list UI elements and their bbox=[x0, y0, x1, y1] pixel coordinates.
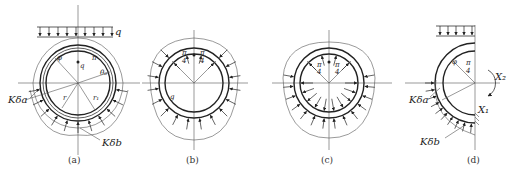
soil-reaction-arrow bbox=[210, 115, 215, 125]
soil-reaction-arrow bbox=[344, 88, 355, 92]
soil-reaction-arrow bbox=[200, 119, 202, 130]
soil-reaction-arrow bbox=[152, 62, 162, 67]
soil-reaction-arrow bbox=[187, 119, 189, 130]
soil-reaction-arrow bbox=[226, 99, 236, 104]
soil-reaction-arrow bbox=[173, 115, 178, 125]
panel-b: π 4 π 4 g (b) bbox=[142, 30, 248, 165]
label-pi-right: π bbox=[199, 49, 205, 57]
soil-reaction-arrow bbox=[351, 111, 357, 119]
label-pi-left: π bbox=[181, 49, 187, 57]
soil-reaction-arrow bbox=[152, 99, 162, 104]
soil-reaction-arrow bbox=[300, 111, 306, 119]
soil-reaction-arrow bbox=[364, 75, 374, 77]
soil-reaction-arrow bbox=[283, 86, 293, 87]
label-4-right: 4 bbox=[334, 68, 339, 76]
soil-reaction-arrow bbox=[337, 97, 343, 107]
label-g: g bbox=[170, 93, 175, 101]
label-r1: r₁ bbox=[93, 94, 99, 102]
soil-reaction-arrow bbox=[286, 96, 295, 100]
label-theta0: θ₀ bbox=[100, 69, 107, 77]
soil-reaction-arrow bbox=[448, 117, 453, 125]
soil-reaction-arrow bbox=[116, 90, 127, 92]
soil-reaction-arrow bbox=[311, 116, 315, 125]
soil-reaction-arrow bbox=[52, 116, 58, 125]
soil-reaction-arrow bbox=[323, 119, 324, 129]
soil-reaction-arrow bbox=[230, 76, 241, 78]
soil-reaction-arrow bbox=[435, 108, 442, 114]
label-q-small: q bbox=[80, 62, 85, 70]
soil-reaction-arrow bbox=[309, 63, 316, 70]
soil-reaction-arrow bbox=[441, 113, 447, 120]
soil-reaction-arrow bbox=[219, 50, 227, 58]
label-4-left: 4 bbox=[316, 68, 321, 76]
panel-d: φ π 4 X₂ X₁ Kδa Kδb (d) bbox=[405, 25, 506, 165]
crown-point bbox=[328, 61, 331, 64]
label-k-delta-b: Kδb bbox=[419, 136, 440, 147]
caption-c: (c) bbox=[321, 155, 333, 165]
soil-reaction-arrow bbox=[161, 50, 169, 58]
label-4-left: 4 bbox=[181, 57, 186, 65]
label-pi: π bbox=[91, 54, 97, 62]
soil-reaction-arrow bbox=[342, 63, 349, 70]
soil-reaction-arrow bbox=[284, 75, 294, 77]
panel-c: π 4 π 4 (c) bbox=[272, 30, 392, 165]
soil-reaction-arrow bbox=[89, 120, 92, 131]
soil-reaction-arrow bbox=[363, 96, 372, 100]
soil-reaction-arrow bbox=[148, 89, 159, 91]
caption-b: (b) bbox=[186, 155, 199, 165]
soil-reaction-arrow bbox=[358, 104, 366, 110]
soil-reaction-arrow bbox=[99, 116, 105, 125]
label-k-delta-b: Kδb bbox=[101, 137, 122, 148]
figure-canvas: q φ π q θ₀ r₁ r Kδa Kδb (a) π bbox=[0, 0, 517, 174]
soil-reaction-arrow bbox=[324, 99, 326, 111]
soil-reaction-arrow bbox=[226, 62, 236, 67]
caption-d: (d) bbox=[467, 155, 480, 165]
soil-reaction-arrow bbox=[230, 89, 241, 91]
crown-point bbox=[193, 54, 196, 57]
soil-reaction-arrow bbox=[315, 97, 321, 107]
soil-reaction-arrow bbox=[471, 124, 472, 133]
label-x1: X₁ bbox=[477, 104, 489, 115]
radius-lower bbox=[442, 83, 475, 100]
soil-reaction-arrow bbox=[308, 93, 317, 101]
label-x2: X₂ bbox=[494, 71, 506, 82]
soil-reaction-arrow bbox=[64, 120, 67, 131]
soil-reaction-arrow bbox=[219, 108, 227, 116]
panel-a: q φ π q θ₀ r₁ r Kδa Kδb (a) bbox=[7, 5, 140, 165]
soil-reaction-arrow bbox=[303, 88, 314, 92]
label-phi: φ bbox=[57, 54, 62, 62]
soil-reaction-arrow bbox=[292, 104, 300, 110]
soil-reaction-arrow bbox=[426, 90, 435, 91]
soil-reaction-arrow bbox=[428, 96, 437, 99]
label-k-delta-a: Kδa bbox=[7, 94, 27, 105]
label-k-delta-a: Kδa bbox=[408, 94, 428, 105]
soil-reaction-arrow bbox=[161, 108, 169, 116]
soil-reaction-arrow bbox=[332, 99, 334, 111]
soil-reaction-arrow bbox=[187, 56, 189, 64]
soil-reaction-arrow bbox=[341, 93, 350, 101]
soil-reaction-arrow bbox=[208, 63, 214, 69]
soil-reaction-arrow bbox=[148, 76, 159, 78]
soil-reaction-arrow bbox=[322, 56, 325, 66]
caption-a: (a) bbox=[68, 155, 80, 165]
distributed-load-q: q bbox=[37, 26, 121, 37]
label-phi: φ bbox=[452, 58, 457, 66]
label-pi: π bbox=[465, 59, 471, 67]
soil-reaction-arrow bbox=[343, 116, 347, 125]
load-label-q: q bbox=[115, 26, 121, 37]
soil-reaction-arrow bbox=[334, 119, 335, 129]
distributed-load-half bbox=[436, 26, 475, 36]
leader-k-delta-b bbox=[445, 125, 465, 138]
soil-reaction-arrow bbox=[365, 86, 375, 87]
label-4: 4 bbox=[465, 67, 470, 75]
soil-reaction-arrow bbox=[174, 63, 180, 69]
